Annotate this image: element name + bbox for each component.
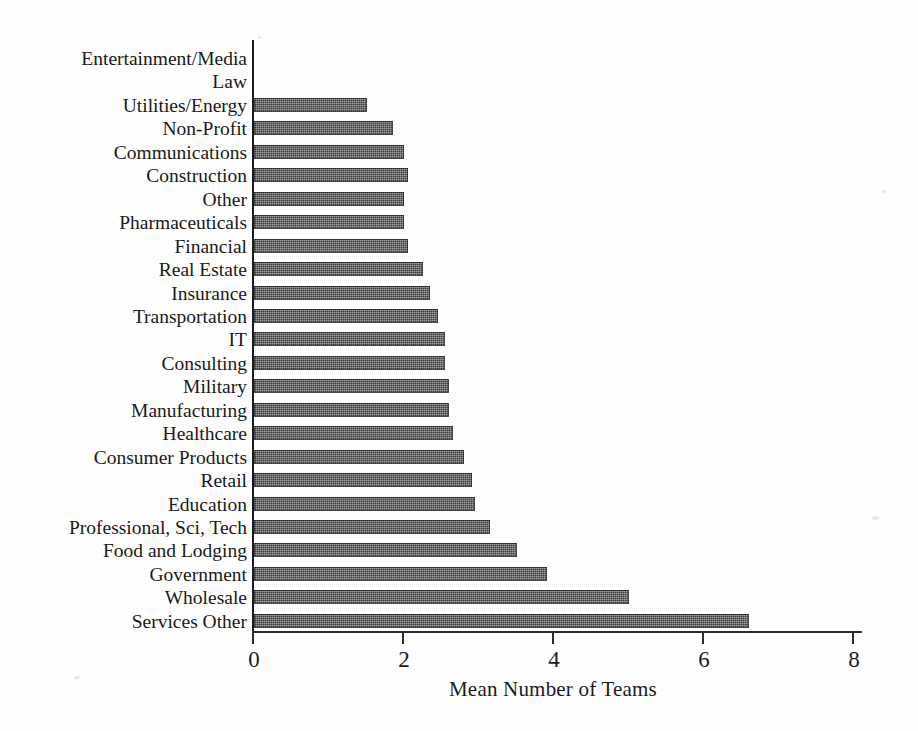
bar: [254, 121, 393, 135]
category-label: Other: [0, 188, 247, 211]
category-label: Transportation: [0, 305, 247, 328]
x-tick-mark: [702, 633, 704, 644]
bar: [254, 286, 430, 300]
x-tick-mark: [852, 633, 854, 644]
x-axis-spine: [252, 631, 862, 633]
bar: [254, 145, 404, 159]
category-label: Entertainment/Media: [0, 47, 247, 70]
x-tick-mark: [552, 633, 554, 644]
category-label: Pharmaceuticals: [0, 211, 247, 234]
x-tick-mark: [402, 633, 404, 644]
x-tick-label: 0: [234, 646, 274, 674]
category-label: Manufacturing: [0, 399, 247, 422]
bar: [254, 473, 472, 487]
scan-speckle: [74, 676, 80, 679]
category-label: Wholesale: [0, 586, 247, 609]
x-tick-label: 4: [534, 646, 574, 674]
x-tick-mark: [252, 633, 254, 644]
bar: [254, 309, 438, 323]
category-label: Professional, Sci, Tech: [0, 516, 247, 539]
category-label: Non-Profit: [0, 117, 247, 140]
bar: [254, 379, 449, 393]
x-tick-label: 6: [684, 646, 724, 674]
bar: [254, 356, 445, 370]
category-label: Insurance: [0, 282, 247, 305]
plot-area: Entertainment/MediaLawUtilities/EnergyNo…: [0, 0, 918, 731]
category-label: Construction: [0, 164, 247, 187]
category-label: Consulting: [0, 352, 247, 375]
bar: [254, 332, 445, 346]
bar: [254, 614, 749, 628]
category-label: Food and Lodging: [0, 539, 247, 562]
scan-speckle: [258, 36, 261, 39]
bar: [254, 450, 464, 464]
category-label: Services Other: [0, 610, 247, 633]
bar: [254, 168, 408, 182]
bar: [254, 520, 490, 534]
category-label: Utilities/Energy: [0, 94, 247, 117]
bar: [254, 192, 404, 206]
category-label: IT: [0, 328, 247, 351]
category-label: Military: [0, 375, 247, 398]
category-label: Real Estate: [0, 258, 247, 281]
scan-speckle: [882, 190, 886, 193]
bar: [254, 403, 449, 417]
bar: [254, 215, 404, 229]
category-label: Healthcare: [0, 422, 247, 445]
x-tick-label: 8: [834, 646, 874, 674]
x-tick-label: 2: [384, 646, 424, 674]
scan-speckle: [872, 516, 879, 520]
category-label: Education: [0, 493, 247, 516]
bar: [254, 543, 517, 557]
category-label: Law: [0, 70, 247, 93]
bar: [254, 590, 629, 604]
x-axis-title: Mean Number of Teams: [253, 676, 853, 702]
category-label: Government: [0, 563, 247, 586]
bar: [254, 262, 423, 276]
bar-chart: Entertainment/MediaLawUtilities/EnergyNo…: [0, 0, 918, 731]
category-label: Communications: [0, 141, 247, 164]
bar: [254, 497, 475, 511]
bar: [254, 426, 453, 440]
category-label: Retail: [0, 469, 247, 492]
bar: [254, 567, 547, 581]
bar: [254, 239, 408, 253]
bar: [254, 98, 367, 112]
category-label: Consumer Products: [0, 446, 247, 469]
category-label: Financial: [0, 235, 247, 258]
